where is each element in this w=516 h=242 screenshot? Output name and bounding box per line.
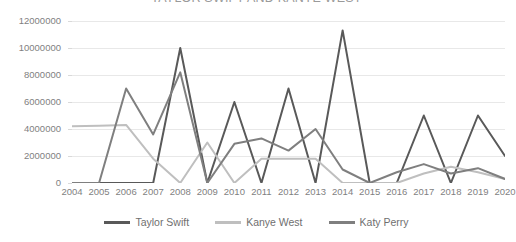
x-tick-label: 2011 bbox=[251, 186, 271, 198]
x-tick-label: 2015 bbox=[359, 186, 380, 198]
legend-item-katy-perry[interactable]: Katy Perry bbox=[329, 216, 409, 228]
legend-label: Kanye West bbox=[246, 216, 302, 228]
legend-item-taylor-swift[interactable]: Taylor Swift bbox=[104, 216, 189, 228]
y-axis: 0200000040000006000000800000010000000120… bbox=[0, 0, 68, 242]
x-tick-label: 2018 bbox=[440, 186, 461, 198]
x-tick-label: 2013 bbox=[305, 186, 326, 198]
legend-swatch-icon bbox=[329, 221, 355, 224]
series-lines bbox=[72, 21, 505, 183]
y-tick-label: 12000000 bbox=[19, 16, 61, 26]
x-tick-label: 2019 bbox=[467, 186, 488, 198]
x-tick-label: 2004 bbox=[61, 186, 82, 198]
x-tick-label: 2009 bbox=[197, 186, 218, 198]
y-tick-label: 4000000 bbox=[24, 124, 61, 134]
x-tick-label: 2007 bbox=[143, 186, 164, 198]
x-tick-label: 2016 bbox=[386, 186, 407, 198]
x-tick-label: 2005 bbox=[88, 186, 109, 198]
x-tick-label: 2006 bbox=[116, 186, 137, 198]
legend-swatch-icon bbox=[215, 221, 241, 224]
y-tick-label: 6000000 bbox=[24, 97, 61, 107]
plot-area bbox=[72, 21, 505, 183]
y-tick-label: 8000000 bbox=[24, 70, 61, 80]
x-tick-label: 2010 bbox=[224, 186, 245, 198]
legend-item-kanye-west[interactable]: Kanye West bbox=[215, 216, 302, 228]
chart-title: TAYLOR SWIFT AND KANYE WEST bbox=[0, 0, 513, 5]
x-tick-label: 2020 bbox=[494, 186, 515, 198]
x-axis: 2004200520062007200820092010201120122013… bbox=[72, 186, 505, 200]
x-tick-label: 2012 bbox=[278, 186, 299, 198]
legend-swatch-icon bbox=[104, 221, 130, 224]
x-tick-label: 2008 bbox=[170, 186, 191, 198]
y-tick-mark bbox=[68, 183, 72, 184]
legend-label: Taylor Swift bbox=[135, 216, 189, 228]
legend-label: Katy Perry bbox=[360, 216, 409, 228]
x-tick-label: 2017 bbox=[413, 186, 434, 198]
y-tick-label: 2000000 bbox=[24, 151, 61, 161]
x-tick-label: 2014 bbox=[332, 186, 353, 198]
y-tick-label: 10000000 bbox=[19, 43, 61, 53]
chart-legend: Taylor SwiftKanye WestKaty Perry bbox=[0, 216, 513, 228]
y-tick-label: 0 bbox=[56, 178, 61, 188]
